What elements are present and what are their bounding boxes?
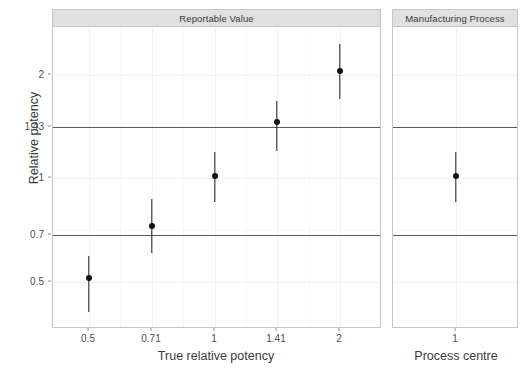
x-tick-label-1-41: 1.41	[266, 333, 285, 344]
y-tick-mark-1-43	[48, 126, 51, 127]
reference-line-lower-0-7	[53, 235, 380, 236]
y-tick-label-1-43: 1.43	[0, 121, 44, 132]
panel-strip-reportable-value: Reportable Value	[52, 9, 381, 26]
gridline-y-2	[53, 75, 380, 76]
errorbar-1-41	[276, 101, 277, 151]
y-tick-label-0-7: 0.7	[0, 229, 44, 240]
x-axis-title-process-centre: Process centre	[414, 349, 497, 363]
gridline-x-minor-4	[309, 27, 310, 327]
reference-line2-lower-0-7	[393, 235, 517, 236]
x-tick-mark-0-5	[88, 328, 89, 331]
point-2	[337, 68, 343, 74]
x-tick-mark-1	[214, 328, 215, 331]
x-tick-label-1: 1	[211, 333, 217, 344]
x-tick-mark-process-centre-1	[455, 328, 456, 331]
gridline2-y-0-5	[393, 282, 517, 283]
gridline-x-minor-2	[183, 27, 184, 327]
reference-line2-upper-1-43	[393, 127, 517, 128]
point-1	[212, 173, 218, 179]
gridline-x-minor-3	[246, 27, 247, 327]
point-process-centre-1	[453, 173, 459, 179]
x-tick-mark-2	[339, 328, 340, 331]
y-tick-mark-0-5	[48, 281, 51, 282]
x-tick-mark-1-41	[276, 328, 277, 331]
y-tick-label-1: 1	[0, 172, 44, 183]
gridline-x-0-71	[152, 27, 153, 327]
x-axis-title-reportable-value: True relative potency	[158, 349, 274, 363]
y-tick-mark-0-7	[48, 234, 51, 235]
x-tick-label-0-5: 0.5	[81, 333, 95, 344]
x-tick-label-process-centre-1: 1	[452, 333, 458, 344]
gridline-y-minor-0-71	[53, 230, 380, 231]
point-1-41	[274, 119, 280, 125]
errorbar-0-5	[88, 256, 89, 312]
x-tick-mark-0-71	[151, 328, 152, 331]
gridline2-y-2	[393, 75, 517, 76]
panel-reportable-value	[52, 26, 381, 328]
gridline-x-1-41	[277, 27, 278, 327]
y-tick-label-2: 2	[0, 69, 44, 80]
panel-manufacturing-process	[392, 26, 518, 328]
y-tick-label-0-5: 0.5	[0, 276, 44, 287]
point-0-5	[86, 275, 92, 281]
y-axis-title: Relative potency	[27, 28, 41, 248]
y-tick-mark-2	[48, 74, 51, 75]
panel-strip-manufacturing-process: Manufacturing Process	[392, 9, 518, 26]
reference-line-upper-1-43	[53, 127, 380, 128]
y-tick-mark-1	[48, 177, 51, 178]
point-0-71	[149, 223, 155, 229]
x-tick-label-2: 2	[336, 333, 342, 344]
gridline2-y-minor-0-71	[393, 230, 517, 231]
x-tick-label-0-71: 0.71	[141, 333, 160, 344]
gridline-x-minor-1	[120, 27, 121, 327]
chart-figure: Relative potency 2 1.43 1 0.7 0.5 Report…	[0, 0, 530, 371]
gridline-y-0-5	[53, 282, 380, 283]
